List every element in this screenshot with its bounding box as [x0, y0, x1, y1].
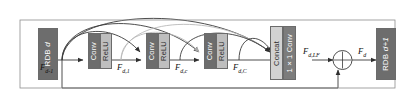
- rdb-architecture-diagram: RDB d Conv ReLU Conv ReLU Conv ReLU Conc…: [0, 0, 409, 100]
- block-rdb-next[interactable]: RDB d+1: [376, 28, 396, 80]
- block-conv-1[interactable]: Conv: [88, 33, 100, 69]
- block-conv-1-label: Conv: [90, 42, 98, 60]
- sum-node: [333, 51, 352, 70]
- block-relu-c[interactable]: ReLU: [158, 33, 170, 69]
- block-conv-capital-c[interactable]: Conv: [204, 33, 216, 69]
- block-relu-capital-c[interactable]: ReLU: [216, 33, 228, 69]
- block-relu-capital-c-label: ReLU: [218, 41, 226, 61]
- signal-label-output: Fd: [358, 47, 366, 56]
- block-concat[interactable]: Concat: [270, 26, 283, 80]
- dense-connection-arcs-from-stage1: [121, 24, 270, 60]
- block-conv-c-label: Conv: [148, 42, 156, 60]
- block-rdb-next-label: RDB d+1: [382, 37, 390, 71]
- block-one-by-one-conv-label: 1×1 Conv: [286, 34, 294, 73]
- signal-label-stage1: Fd,1: [117, 63, 130, 72]
- signal-label-input: Fd-1: [40, 63, 53, 72]
- signal-label-stage-capital-c: Fd,C: [233, 63, 247, 72]
- block-conv-capital-c-label: Conv: [206, 42, 214, 60]
- signal-label-local-fusion: Fd,LF: [303, 47, 320, 56]
- signal-label-stage-c: Fd,c: [175, 63, 187, 72]
- block-conv-c[interactable]: Conv: [146, 33, 158, 69]
- block-relu-c-label: ReLU: [160, 41, 168, 61]
- block-concat-label: Concat: [273, 41, 281, 66]
- block-one-by-one-conv[interactable]: 1×1 Conv: [283, 26, 296, 80]
- block-relu-1-label: ReLU: [102, 41, 110, 61]
- block-relu-1[interactable]: ReLU: [100, 33, 112, 69]
